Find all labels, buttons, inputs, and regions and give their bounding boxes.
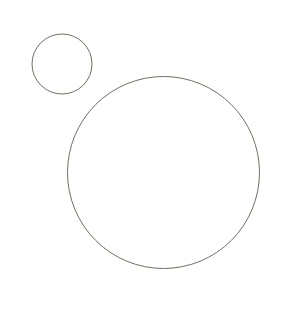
figure-background	[0, 0, 292, 320]
two-circles-figure	[0, 0, 292, 320]
figure-canvas	[0, 0, 292, 320]
